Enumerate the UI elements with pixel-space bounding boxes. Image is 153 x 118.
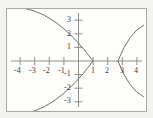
x-tick-label-4: 4 [134,67,138,75]
curve-left-parabola-upper [15,9,93,61]
y-tick-label-1: 1 [67,43,71,51]
x-tick-label--4: -4 [14,67,21,75]
figure-frame: -4 -3 -2 -1 1 2 3 4 3 2 1 -1 -2 -3 [6,8,147,112]
y-tick-label-2: 2 [67,30,71,38]
x-tick-label--3: -3 [29,67,36,75]
x-tick-label--2: -2 [43,67,50,75]
scan-artifact-strip: · · · · · ·· · [0,0,153,7]
curve-left-parabola-lower [15,61,93,111]
x-tick-label-3: 3 [120,67,124,75]
y-tick-label--2: -2 [64,84,71,92]
y-tick-label-3: 3 [67,16,71,24]
x-tick-label-2: 2 [105,67,109,75]
curve-right-parabola-upper [118,25,144,61]
y-tick-label--1: -1 [64,70,71,78]
chart-screenshot: · · · · · ·· · [0,0,153,118]
x-tick-label-1: 1 [91,67,95,75]
y-tick-label--3: -3 [64,97,71,105]
parabola-plot [7,9,146,111]
